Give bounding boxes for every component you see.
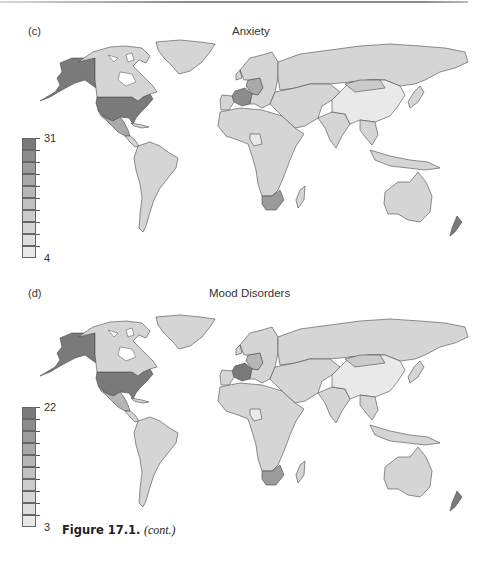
legend-bin: [22, 479, 36, 491]
legend-tick: [36, 138, 40, 139]
legend-bin: [22, 162, 36, 174]
region-alaska-usa: [40, 58, 102, 101]
map-regions: [40, 40, 468, 236]
region-south-america: [134, 142, 178, 232]
region-new-zealand: [450, 491, 462, 511]
legend-tick: [36, 419, 40, 420]
region-india-south-asia: [318, 112, 350, 148]
region-japan: [408, 86, 424, 108]
legend-tick: [36, 443, 40, 444]
legend-bin: [22, 234, 36, 246]
legend-bin: [22, 515, 36, 527]
legend-bin: [22, 443, 36, 455]
legend-max-label: 22: [44, 401, 56, 413]
legend-bin: [22, 150, 36, 162]
region-alaska-usa: [40, 333, 102, 376]
region-greenland: [156, 315, 215, 349]
region-france: [232, 88, 252, 106]
region-indonesia-pacific: [370, 150, 440, 170]
legend-bin: [22, 222, 36, 234]
legend-tick: [36, 186, 40, 187]
figure-caption: Figure 17.1. (cont.): [62, 523, 176, 538]
legend-tick: [36, 431, 40, 432]
legend-tick: [36, 479, 40, 480]
region-japan: [408, 361, 424, 383]
legend-tick: [36, 455, 40, 456]
legend-tick: [36, 491, 40, 492]
legend-max-label: 31: [44, 132, 56, 144]
legend-bin: [22, 210, 36, 222]
region-madagascar: [296, 186, 305, 208]
legend-bin: [22, 138, 36, 150]
region-southeast-asia: [360, 395, 378, 420]
legend-bin: [22, 246, 36, 258]
legend-min-label: 4: [44, 252, 50, 264]
region-usa: [96, 94, 153, 124]
legend-bin: [22, 467, 36, 479]
legend-bin: [22, 491, 36, 503]
region-france: [232, 363, 252, 381]
map-panel-anxiety: (c) Anxiety 314: [0, 0, 491, 282]
legend-tick: [36, 198, 40, 199]
region-greenland: [156, 40, 215, 74]
legend-bin: [22, 174, 36, 186]
legend-bin: [22, 419, 36, 431]
caption-number: Figure 17.1.: [62, 523, 140, 537]
legend-tick: [36, 174, 40, 175]
map-regions: [40, 315, 468, 511]
region-south-america: [134, 417, 178, 507]
legend-bin: [22, 431, 36, 443]
legend-bin: [22, 407, 36, 419]
legend-tick: [36, 503, 40, 504]
legend-tick: [36, 162, 40, 163]
region-australia: [384, 172, 432, 222]
legend-bin: [22, 503, 36, 515]
region-india-south-asia: [318, 387, 350, 423]
region-indonesia-pacific: [370, 425, 440, 445]
legend-tick: [36, 210, 40, 211]
region-madagascar: [296, 461, 305, 483]
legend-bin: [22, 186, 36, 198]
legend-tick: [36, 150, 40, 151]
legend-tick: [36, 515, 40, 516]
region-southeast-asia: [360, 120, 378, 145]
legend-tick: [36, 234, 40, 235]
color-legend: 223: [22, 407, 82, 537]
caption-suffix: (cont.): [144, 523, 176, 537]
legend-bin: [22, 455, 36, 467]
map-panel-mood-disorders: (d) Mood Disorders 223: [0, 282, 491, 532]
legend-min-label: 3: [44, 521, 50, 533]
legend-tick: [36, 467, 40, 468]
region-australia: [384, 447, 432, 497]
legend-tick: [36, 222, 40, 223]
legend-bin: [22, 198, 36, 210]
region-new-zealand: [450, 216, 462, 236]
region-usa: [96, 369, 153, 399]
legend-tick: [36, 246, 40, 247]
color-legend: 314: [22, 138, 82, 268]
legend-tick: [36, 407, 40, 408]
